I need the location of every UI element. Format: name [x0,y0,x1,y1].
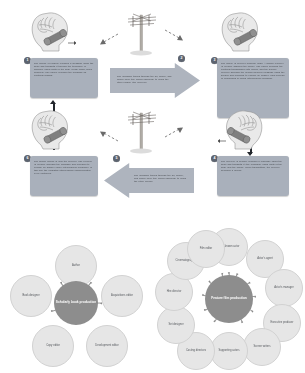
step-callout-1: The source (a person) encodes a message … [30,58,98,98]
signal-arrow-right-top [163,28,185,42]
feature-film-production-diagram: Well-known actor Actor's agent Actor's m… [155,228,303,370]
node-film-editor: Film editor [187,230,225,268]
head-brain-phone-left-bottom-illustration [28,108,76,152]
step-badge-2: 2 [178,55,185,62]
head-brain-phone-left-top-illustration [28,10,76,54]
hub-label-scholarly-book-production: Scholarly book production [56,301,96,305]
hub-feature-film-production: Feature film production [205,275,253,323]
step-text-1: The source (a person) encodes a message … [34,62,94,77]
node-label-screen-writers: Screen writers [252,345,271,348]
node-label-copy-editor: Copy editor [45,344,61,347]
telephone-pole-top-illustration [118,6,166,56]
node-label-book-designer: Book designer [21,294,40,297]
node-supporting-actors: Supporting actors [210,332,248,370]
step-callout-5: The message travels through the air, pho… [104,163,194,198]
node-label-development-editor: Development editor [94,344,119,347]
head-brain-phone-right-bottom-illustration [218,108,266,152]
node-label-supporting-actors: Supporting actors [217,349,240,352]
node-label-author: Author [71,264,81,267]
node-label-executive-producer: Executive producer [269,321,294,324]
step-text-4: The receiver (a person) encodes a respon… [221,160,285,172]
connector-up-left-head [50,100,56,104]
node-label-actors-manager: Actor's manager [273,286,294,289]
node-book-designer: Book designer [10,275,52,317]
step-callout-2: The message travels through the air, pho… [110,63,200,98]
node-label-casting-directors: Casting directors [185,349,207,352]
signal-arrow-left-bottom [98,130,120,144]
step-text-6: The former source is now the receiver. T… [34,160,94,175]
telephone-pole-bottom-illustration [118,104,166,154]
step-callout-6: The former source is now the receiver. T… [30,156,98,196]
scholarly-book-production-diagram: Author Acquisitions editor Development e… [8,240,148,370]
node-copy-editor: Copy editor [32,325,74,367]
step-text-5: The message travels through the air, pho… [104,163,194,183]
hub-label-feature-film-production: Feature film production [211,297,247,301]
hub-scholarly-book-production: Scholarly book production [54,281,98,325]
node-label-acquisitions-editor: Acquisitions editor [110,294,134,297]
step-callout-4: The receiver (a person) encodes a respon… [217,156,289,196]
node-label-actors-agent: Actor's agent [256,257,274,260]
step-text-3: The phone (a receiver medium) rings. A h… [221,62,285,80]
node-set-designer: Set designer [157,306,195,344]
signal-arrow-right-bottom [163,126,185,140]
node-acquisitions-editor: Acquisitions editor [101,275,143,317]
node-label-hire-director: Hire director [166,290,183,293]
figure-page: 1 The source (a person) encodes a messag… [0,0,305,373]
head-brain-phone-right-top-illustration [218,10,266,54]
step-text-2: The message travels through the air, pho… [110,63,200,84]
step-badge-5: 5 [113,155,120,162]
node-actors-manager: Actor's manager [265,269,303,307]
node-screen-writers: Screen writers [243,328,281,366]
node-label-set-designer: Set designer [167,323,184,326]
signal-arrow-left-top [98,32,120,46]
node-development-editor: Development editor [86,325,128,367]
node-label-film-editor: Film editor [199,247,214,250]
